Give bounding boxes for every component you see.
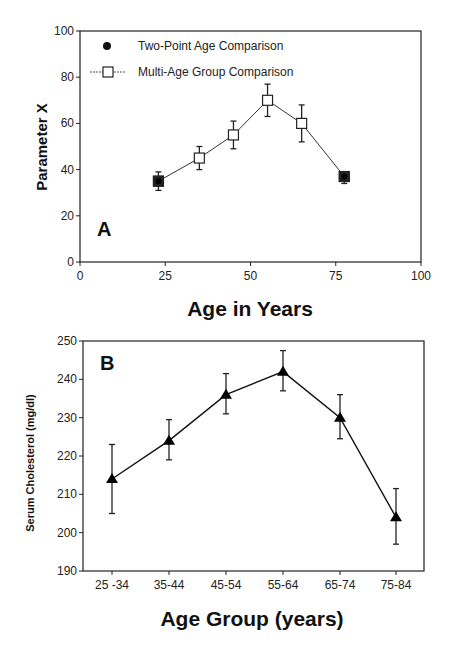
y-tick-label: 210 bbox=[57, 487, 77, 501]
y-tick-label: 0 bbox=[67, 255, 74, 269]
filled-circle-icon bbox=[103, 42, 111, 50]
y-tick-label: 20 bbox=[61, 209, 75, 223]
legend-label: Multi-Age Group Comparison bbox=[138, 65, 293, 79]
multi-age-line bbox=[158, 100, 344, 181]
x-tick-label: 55-64 bbox=[268, 578, 299, 592]
chart-b: 19020021022023024025025 -3435-4445-5455-… bbox=[24, 334, 424, 630]
chart-a: 0204060801000255075100Age in YearsParame… bbox=[33, 24, 431, 320]
cholesterol-line bbox=[112, 372, 396, 518]
y-tick-label: 40 bbox=[61, 163, 75, 177]
y-tick-label: 80 bbox=[61, 70, 75, 84]
y-tick-label: 60 bbox=[61, 116, 75, 130]
legend: Two-Point Age ComparisonMulti-Age Group … bbox=[90, 39, 293, 79]
x-tick-label: 35-44 bbox=[154, 578, 185, 592]
y-tick-label: 230 bbox=[57, 411, 77, 425]
triangle-marker bbox=[334, 412, 346, 422]
figure: 0204060801000255075100Age in YearsParame… bbox=[0, 0, 452, 650]
triangle-marker bbox=[390, 511, 402, 521]
triangle-marker bbox=[106, 473, 118, 483]
x-tick-label: 65-74 bbox=[325, 578, 356, 592]
y-tick-label: 250 bbox=[57, 334, 77, 348]
open-square-marker bbox=[194, 153, 204, 163]
y-axis-label: Serum Cholesterol (mg/dl) bbox=[24, 394, 36, 532]
plot-frame bbox=[83, 341, 424, 571]
x-tick-label: 75-84 bbox=[381, 578, 412, 592]
y-axis-label: Parameter X bbox=[33, 103, 50, 191]
panel-label-b: B bbox=[100, 352, 114, 374]
x-axis-label: Age Group (years) bbox=[160, 607, 343, 630]
open-square-marker bbox=[297, 118, 307, 128]
legend-label: Two-Point Age Comparison bbox=[138, 39, 283, 53]
y-tick-label: 100 bbox=[54, 24, 74, 38]
triangle-marker bbox=[163, 435, 175, 445]
y-tick-label: 240 bbox=[57, 372, 77, 386]
y-tick-label: 200 bbox=[57, 526, 77, 540]
x-tick-label: 50 bbox=[244, 269, 258, 283]
x-tick-label: 0 bbox=[77, 269, 84, 283]
x-tick-label: 45-54 bbox=[211, 578, 242, 592]
y-tick-label: 190 bbox=[57, 564, 77, 578]
x-axis-label: Age in Years bbox=[187, 297, 313, 320]
open-square-icon bbox=[103, 67, 113, 77]
panel-label-a: A bbox=[97, 218, 111, 240]
x-tick-label: 100 bbox=[411, 269, 431, 283]
x-tick-label: 25 bbox=[159, 269, 173, 283]
open-square-marker bbox=[263, 95, 273, 105]
open-square-marker bbox=[228, 130, 238, 140]
x-tick-label: 75 bbox=[329, 269, 343, 283]
x-tick-label: 25 -34 bbox=[95, 578, 129, 592]
triangle-marker bbox=[277, 366, 289, 376]
y-tick-label: 220 bbox=[57, 449, 77, 463]
